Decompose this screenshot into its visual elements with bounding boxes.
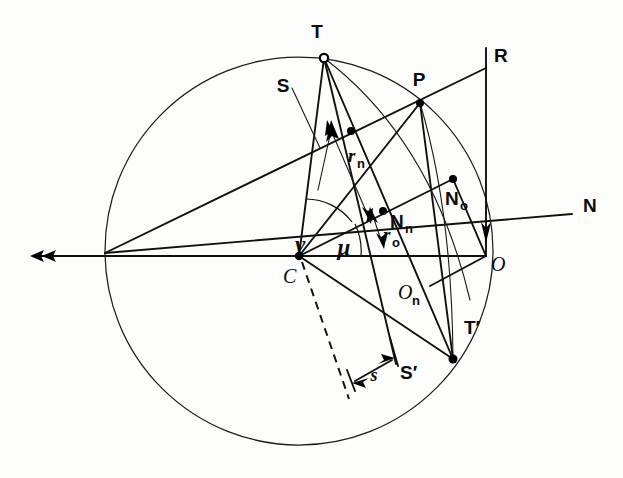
line-O-On: [430, 256, 486, 286]
dashed-guide-line: [302, 262, 349, 399]
point-marker-T: [320, 54, 328, 62]
label-T-prime: T′: [464, 317, 481, 338]
label-R: R: [494, 45, 508, 66]
s-arrow-left-icon: [352, 378, 369, 388]
label-On: O n: [398, 281, 420, 308]
label-s: s: [369, 365, 377, 385]
diagram-canvas: T S P R N O C T′ S′ N n N o O n r n: [0, 0, 623, 478]
point-marker-Nn: [379, 207, 387, 215]
label-nu: ν: [295, 232, 306, 257]
angle-arc-mu: [355, 224, 361, 256]
label-ro-main: r: [383, 224, 391, 245]
geometry-figure: T S P R N O C T′ S′ N n N o O n r n: [0, 0, 623, 478]
label-No: N o: [445, 188, 468, 213]
rn-measure-line: [330, 128, 369, 218]
point-marker-P: [416, 99, 424, 107]
s-tick-right: [390, 338, 398, 366]
label-S-prime: S′: [400, 362, 418, 383]
label-No-main: N: [445, 188, 459, 209]
label-Nn-main: N: [390, 211, 404, 232]
label-O: O: [491, 253, 505, 275]
label-C: C: [283, 265, 297, 287]
label-ro-sub: o: [392, 235, 400, 250]
point-marker-chord-mid: [347, 127, 355, 135]
label-On-sub: n: [412, 293, 420, 308]
s-tick-left: [347, 370, 355, 391]
label-rn-sub: n: [357, 156, 365, 171]
label-mu: μ: [337, 235, 351, 260]
label-rn-main: r: [348, 145, 356, 166]
label-No-sub: o: [460, 198, 468, 213]
point-marker-Tprime: [449, 355, 458, 364]
label-S: S: [277, 75, 290, 96]
label-On-main: O: [398, 281, 412, 303]
label-Nn-sub: n: [405, 221, 413, 236]
label-T: T: [311, 21, 323, 42]
label-N: N: [583, 195, 597, 216]
arc-T-lower-right: [324, 58, 470, 300]
label-Nn: N n: [390, 211, 413, 236]
ray-C-P: [299, 103, 420, 256]
point-marker-No: [449, 175, 457, 183]
ray-C-No: [299, 179, 453, 256]
label-P: P: [413, 69, 426, 90]
